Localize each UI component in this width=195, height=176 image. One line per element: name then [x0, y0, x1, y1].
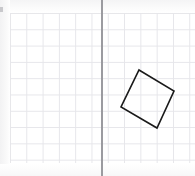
shape-layer	[0, 0, 195, 176]
rotated-square-shape[interactable]	[121, 70, 174, 128]
graph-paper-canvas	[0, 0, 195, 176]
